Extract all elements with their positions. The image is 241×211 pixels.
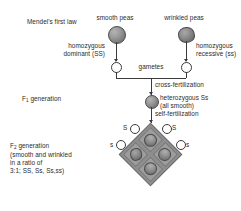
f2-description-line2: (smooth and wrinkled [10, 151, 72, 159]
punnett-cell-top-smooth-pea-icon [155, 145, 174, 164]
punnett-top-right-allele: S [172, 124, 176, 132]
gamete-right-icon [181, 62, 192, 73]
parent-left-genotype-line2: dominant (SS) [47, 50, 105, 58]
parent-right-genotype-line2: recessive (ss) [196, 50, 236, 58]
f1-generation-suffix: generation [29, 95, 62, 102]
gametes-label: gametes [126, 63, 176, 71]
punnett-gamete-top-left-icon [130, 124, 140, 134]
punnett-gamete-right-icon [176, 140, 186, 150]
punnett-grid [119, 123, 183, 187]
parent-left-phenotype-label: smooth peas [84, 14, 146, 22]
parent-right-genotype-line1: homozygous [196, 42, 233, 50]
self-fertilization-label: self-fertilization [155, 110, 199, 118]
punnett-left-allele: s [110, 141, 113, 149]
f2-generation-suffix: generation [17, 142, 50, 149]
punnett-cell-right-smooth-pea-icon [141, 159, 160, 178]
parent-left-smooth-pea-icon [108, 26, 126, 44]
gamete-right-down-line [186, 72, 187, 78]
figure-title: Mendel's first law [27, 18, 77, 26]
f1-heterozygous-pea-icon [145, 95, 159, 109]
punnett-square [119, 123, 183, 187]
punnett-cell-bottom-wrinkled-pea-icon [130, 148, 142, 161]
parent-right-wrinkled-pea-icon [178, 27, 195, 43]
f2-description-line4: 3:1; SS, Ss, Ss,ss) [10, 167, 64, 175]
f1-genotype-line1: heterozygous Ss [160, 94, 208, 102]
punnett-top-left-allele: S [123, 124, 127, 132]
parent-right-phenotype-label: wrinkled peas [153, 14, 215, 22]
mendel-first-law-figure: Mendel's first law smooth peas wrinkled … [0, 0, 241, 211]
f1-generation-label: F1 generation [22, 95, 61, 105]
gamete-left-icon [111, 62, 122, 73]
punnett-right-allele: s [186, 141, 189, 149]
cross-fertilization-label: cross-fertilization [155, 81, 204, 89]
f2-description-line3: in a ratio of [10, 159, 42, 167]
punnett-cell-left-smooth-pea-icon [141, 131, 160, 150]
parent-right-to-gamete-line [186, 41, 187, 61]
f1-genotype-line2: (all smooth) [160, 102, 194, 110]
punnett-gamete-top-right-icon [162, 124, 172, 134]
parent-left-genotype-line1: homozygous [57, 42, 105, 50]
